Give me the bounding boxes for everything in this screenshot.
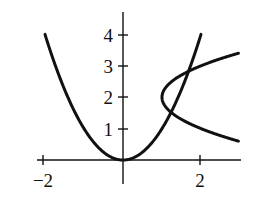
sideways-parabola-curve	[162, 53, 238, 141]
x-tick-label: 2	[195, 170, 205, 191]
chart: −2 2 4 3 2 1	[0, 0, 256, 204]
y-tick-label: 4	[104, 25, 114, 46]
curves	[45, 34, 238, 160]
y-tick-label: 1	[104, 119, 114, 140]
x-axis: −2 2	[33, 155, 241, 191]
y-tick-label: 3	[104, 56, 114, 77]
y-tick-label: 2	[104, 87, 114, 108]
x-tick-label: −2	[33, 170, 53, 191]
